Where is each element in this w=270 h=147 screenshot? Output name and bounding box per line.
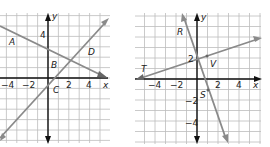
- line-AD-arrow-icon: [97, 71, 108, 78]
- tick-x--2: −2: [170, 80, 183, 90]
- y-axis-arrow-down-icon: [194, 136, 200, 144]
- tick-y--4: −4: [185, 118, 199, 128]
- tick-x--4: −4: [1, 80, 15, 90]
- point-label-D: D: [88, 47, 95, 57]
- tick-x-2: 2: [215, 80, 221, 90]
- point-label-B: B: [51, 60, 57, 70]
- tick-x-4: 4: [236, 80, 242, 90]
- tick-x--4: −4: [148, 80, 162, 90]
- y-axis-arrow-up-icon: [194, 13, 200, 21]
- point-label-R: R: [177, 27, 183, 37]
- x-axis-label: x: [102, 80, 109, 90]
- y-axis-label: y: [51, 11, 58, 21]
- graph-right: y x −4 −2 2 4 2 −2 −4 T V R S: [135, 0, 270, 147]
- point-label-A: A: [8, 37, 15, 47]
- point-label-V: V: [210, 59, 217, 69]
- x-axis-label: x: [252, 80, 259, 90]
- graph-right-svg: y x −4 −2 2 4 2 −2 −4 T V R S: [135, 0, 270, 147]
- lines-right: [135, 13, 262, 143]
- point-V-dot: [206, 55, 209, 58]
- point-label-T: T: [141, 64, 148, 74]
- line-TV-arrow-left-icon: [135, 74, 144, 80]
- y-axis-label: y: [200, 12, 207, 22]
- graph-left: y x −4 −2 2 4 4 A B C D: [0, 0, 112, 147]
- point-label-C: C: [53, 85, 60, 95]
- graph-left-svg: y x −4 −2 2 4 4 A B C D: [0, 0, 112, 147]
- tick-y-4: 4: [40, 30, 46, 40]
- tick-y-2: 2: [188, 54, 194, 64]
- tick-x--2: −2: [22, 80, 35, 90]
- axes-right: [135, 13, 262, 144]
- point-S-dot: [207, 89, 210, 92]
- tick-x-2: 2: [66, 80, 72, 90]
- y-axis-arrow-up-icon: [45, 13, 51, 21]
- point-label-S: S: [200, 90, 206, 100]
- tick-y--2: −2: [185, 96, 198, 106]
- tick-x-4: 4: [86, 80, 92, 90]
